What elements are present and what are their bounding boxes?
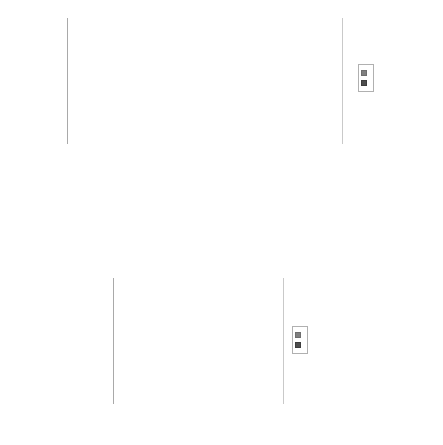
legend-top [358, 64, 374, 92]
x-axis-labels-top [0, 146, 443, 240]
legend-swatch-klinisch-icon [295, 342, 301, 348]
plot-area-top [67, 18, 343, 144]
legend-swatch-nichtklinisch-icon [361, 70, 367, 76]
legend-bottom [292, 326, 308, 354]
legend-swatch-nichtklinisch-icon [295, 332, 301, 338]
bars-layer-top [68, 18, 342, 144]
plot-area-bottom [113, 278, 284, 404]
legend-item [295, 330, 304, 340]
bars-layer-bottom [114, 278, 283, 404]
octant-scale-chart [0, 0, 443, 240]
legend-item [295, 340, 304, 350]
legend-item [361, 78, 370, 88]
legend-swatch-klinisch-icon [361, 80, 367, 86]
legend-item [361, 68, 370, 78]
